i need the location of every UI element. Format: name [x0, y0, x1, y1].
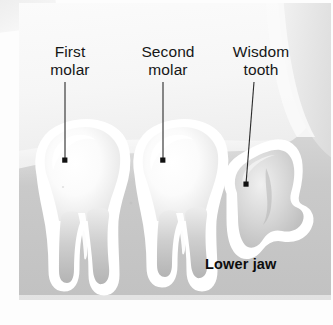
first-molar-leader-dot	[62, 158, 67, 163]
label-lower-jaw: Lower jaw	[205, 256, 276, 272]
label-second-molar: Second molar	[123, 43, 213, 79]
dental-illustration-figure: First molar Second molar Wisdom tooth Lo…	[0, 0, 333, 325]
wisdom-tooth-leader-dot	[243, 182, 248, 187]
bone-fleck	[62, 186, 64, 188]
label-first-molar: First molar	[30, 43, 110, 79]
bone-fleck	[130, 202, 133, 205]
wisdom-tooth-group	[228, 144, 309, 255]
second-molar-leader-dot	[160, 158, 165, 163]
label-wisdom-tooth: Wisdom tooth	[218, 43, 304, 79]
